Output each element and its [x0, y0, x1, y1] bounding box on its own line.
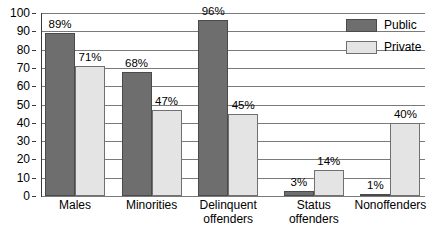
- legend-swatch-private: [346, 41, 377, 54]
- bar-value-label: 47%: [144, 96, 190, 108]
- y-axis-tick-mark: [32, 50, 36, 51]
- bar-private-males: [75, 66, 105, 196]
- category-label-line: offenders: [264, 213, 364, 227]
- bar-value-label: 68%: [114, 58, 160, 70]
- bar-public-nonoffenders: [360, 194, 390, 196]
- legend-item-private: Private: [346, 36, 442, 58]
- y-axis-tick-label: 70: [17, 62, 30, 74]
- bar-value-label: 89%: [37, 19, 83, 31]
- y-axis-tick-mark: [32, 68, 36, 69]
- y-axis-tick-mark: [32, 141, 36, 142]
- bar-private-minorities: [152, 110, 182, 196]
- legend-label: Public: [384, 19, 417, 31]
- y-axis-tick-mark: [32, 13, 36, 14]
- bar-public-status-offenders: [284, 191, 314, 196]
- x-axis-category-labels: MalesMinoritiesDelinquentoffendersStatus…: [42, 199, 425, 239]
- y-axis-labels: 0102030405060708090100: [0, 13, 36, 196]
- chart-legend: PublicPrivate: [346, 14, 442, 58]
- bar-value-label: 14%: [306, 156, 352, 168]
- bar-value-label: 45%: [220, 100, 266, 112]
- y-axis-tick-mark: [32, 123, 36, 124]
- bar-private-delinquent-offenders: [228, 114, 258, 196]
- gridline-0: [42, 196, 425, 197]
- bar-public-minorities: [122, 72, 152, 196]
- y-axis-tick-mark: [32, 159, 36, 160]
- category-label-line: Nonoffenders: [340, 199, 440, 213]
- bar-value-label: 96%: [190, 6, 236, 18]
- bar-chart: 0102030405060708090100 89%71%68%47%96%45…: [0, 0, 444, 239]
- y-axis-tick-label: 40: [17, 117, 30, 129]
- y-axis-tick-mark: [32, 196, 36, 197]
- y-axis-tick-mark: [32, 105, 36, 106]
- bar-private-nonoffenders: [390, 123, 420, 196]
- bar-value-label: 40%: [382, 109, 428, 121]
- y-axis-tick-label: 90: [17, 25, 30, 37]
- y-axis-tick-label: 10: [17, 172, 30, 184]
- y-axis-tick-mark: [32, 31, 36, 32]
- y-axis-tick-label: 80: [17, 44, 30, 56]
- legend-swatch-public: [346, 19, 377, 32]
- y-axis-tick-label: 20: [17, 153, 30, 165]
- legend-label: Private: [384, 41, 421, 53]
- y-axis-tick-label: 100: [10, 7, 30, 19]
- bar-private-status-offenders: [314, 170, 344, 196]
- y-axis-tick-mark: [32, 178, 36, 179]
- legend-item-public: Public: [346, 14, 442, 36]
- y-axis-tick-label: 30: [17, 135, 30, 147]
- y-axis-tick-label: 60: [17, 80, 30, 92]
- bar-value-label: 71%: [67, 52, 113, 64]
- y-axis-tick-mark: [32, 86, 36, 87]
- y-axis-tick-label: 50: [17, 99, 30, 111]
- x-axis-category-label: Nonoffenders: [340, 199, 440, 213]
